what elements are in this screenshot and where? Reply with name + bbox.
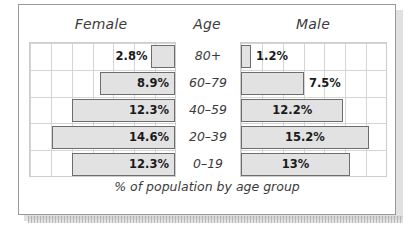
bar-value-male-40-59: 12.2% <box>241 99 343 122</box>
age-label-60-79: 60–79 <box>176 69 240 96</box>
age-label-40-59: 40–59 <box>176 96 240 123</box>
bar-row-male-0-19: 13% <box>241 151 386 178</box>
age-label-80-: 80+ <box>176 42 240 69</box>
bar-row-female-0-19: 12.3% <box>30 151 175 178</box>
chart-plot-area: 2.8%8.9%12.3%14.6%12.3% 80+60–7940–5920–… <box>19 42 395 178</box>
female-grid-panel: 2.8%8.9%12.3%14.6%12.3% <box>29 42 176 177</box>
header-female: Female <box>25 16 177 32</box>
bar-value-female-0-19: 12.3% <box>129 153 169 176</box>
chart-caption: % of population by age group <box>19 179 395 194</box>
bar-value-female-80-: 2.8% <box>116 45 148 68</box>
bar-value-male-0-19: 13% <box>241 153 350 176</box>
header-age: Age <box>177 16 237 32</box>
bar-row-male-60-79: 7.5% <box>241 70 386 97</box>
column-headers: Female Age Male <box>19 16 395 38</box>
bar-value-male-20-39: 15.2% <box>241 126 369 149</box>
bar-value-female-40-59: 12.3% <box>129 99 169 122</box>
bar-male-80- <box>241 45 251 68</box>
bar-row-female-60-79: 8.9% <box>30 70 175 97</box>
age-label-0-19: 0–19 <box>176 150 240 177</box>
bar-value-female-60-79: 8.9% <box>137 72 169 95</box>
bar-value-male-60-79: 7.5% <box>309 72 341 95</box>
bar-female-80- <box>151 45 175 68</box>
header-male: Male <box>237 16 389 32</box>
bar-row-male-20-39: 15.2% <box>241 124 386 151</box>
male-grid-panel: 1.2%7.5%12.2%15.2%13% <box>240 42 387 177</box>
panel-shadow-texture <box>28 216 403 223</box>
bar-value-female-20-39: 14.6% <box>129 126 169 149</box>
bar-row-female-20-39: 14.6% <box>30 124 175 151</box>
bar-row-female-40-59: 12.3% <box>30 97 175 124</box>
age-label-column: 80+60–7940–5920–390–19 <box>176 42 240 177</box>
bar-value-male-80-: 1.2% <box>256 45 288 68</box>
bar-row-male-80-: 1.2% <box>241 43 386 70</box>
population-pyramid-panel: Female Age Male 2.8%8.9%12.3%14.6%12.3% … <box>18 4 396 215</box>
bar-male-60-79 <box>241 72 304 95</box>
age-label-20-39: 20–39 <box>176 123 240 150</box>
bar-row-male-40-59: 12.2% <box>241 97 386 124</box>
bar-row-female-80-: 2.8% <box>30 43 175 70</box>
